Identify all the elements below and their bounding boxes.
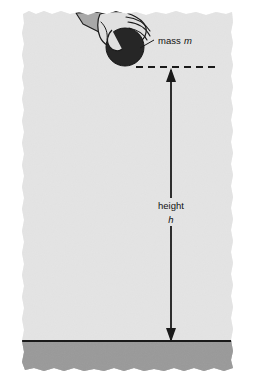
- height-symbol-text: h: [168, 214, 173, 225]
- mass-symbol-text: m: [184, 35, 192, 46]
- diagram-canvas: mass m height h: [0, 0, 255, 383]
- torn-paper-panel: mass m height h: [18, 8, 238, 378]
- height-label-text: height: [158, 200, 184, 211]
- mass-label-text: mass: [158, 35, 181, 46]
- physics-diagram-figure: mass m height h: [0, 0, 255, 383]
